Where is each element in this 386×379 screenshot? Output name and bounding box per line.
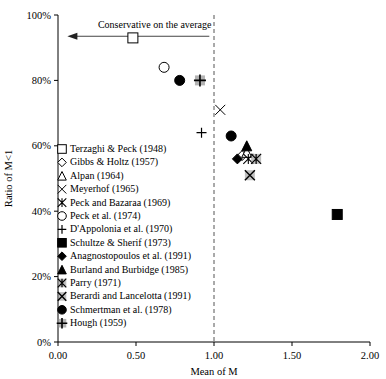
legend-item: Berardi and Lancelotta (1991): [58, 290, 191, 302]
data-point: [245, 170, 255, 180]
legend-item-label: Alpan (1964): [70, 170, 124, 182]
legend-item-label: Terzaghi & Peck (1948): [70, 143, 166, 155]
legend-marker: [58, 172, 67, 181]
legend-item-label: Hough (1959): [70, 317, 126, 329]
y-tick-label: 60%: [32, 140, 52, 151]
data-points-group: [128, 33, 342, 220]
legend-item-label: Meyerhof (1965): [70, 183, 139, 195]
legend-marker: [58, 306, 67, 315]
legend-item: Burland and Burbidge (1985): [58, 264, 188, 276]
data-point: [251, 154, 261, 164]
y-tick-label: 0%: [37, 337, 51, 348]
data-point-marker: [215, 105, 225, 115]
data-point: [194, 74, 206, 86]
legend-item-label: Peck and Bazaraa (1969): [70, 197, 170, 209]
legend-marker: [58, 212, 67, 221]
data-point-marker: [197, 128, 207, 138]
legend-item: Anagnostopoulos et al. (1991): [58, 250, 191, 262]
data-point: [226, 131, 236, 141]
legend-marker: [58, 252, 67, 261]
y-tick-label: 20%: [32, 271, 52, 282]
legend-marker: [58, 158, 67, 167]
data-point: [332, 209, 342, 219]
legend-marker: [58, 239, 67, 248]
x-tick-label: 2.00: [361, 350, 379, 361]
legend-item: Meyerhof (1965): [58, 183, 139, 195]
legend-marker: [58, 185, 67, 194]
y-tick-label: 40%: [32, 206, 52, 217]
legend-item-label: Gibbs & Holtz (1957): [70, 156, 158, 168]
legend-item: Schmertman et al. (1978): [58, 304, 172, 316]
legend-item-label: Schmertman et al. (1978): [70, 304, 172, 316]
legend-item: Peck et al. (1974): [58, 210, 141, 222]
data-point: [242, 141, 252, 151]
legend-item: Parry (1971): [58, 277, 121, 289]
x-tick-label: 1.50: [283, 350, 301, 361]
data-point-marker: [159, 62, 169, 72]
legend-item-label: Parry (1971): [70, 277, 121, 289]
legend-item: Schultze & Sherif (1973): [58, 237, 171, 249]
data-point: [128, 33, 138, 43]
x-tick-label: 0.50: [127, 350, 145, 361]
legend-item-label: Schultze & Sherif (1973): [70, 237, 171, 249]
conservative-arrow-head: [67, 33, 77, 40]
legend-item: Terzaghi & Peck (1948): [58, 143, 167, 155]
data-point-marker: [128, 33, 138, 43]
data-point: [159, 62, 169, 72]
legend-marker: [58, 225, 67, 234]
y-axis-title: Ratio of M<1: [3, 150, 14, 207]
data-point-marker: [226, 131, 236, 141]
y-tick-label: 80%: [32, 75, 52, 86]
data-point: [197, 128, 207, 138]
legend-item-label: Berardi and Lancelotta (1991): [70, 290, 191, 302]
y-tick-label: 100%: [27, 10, 52, 21]
x-tick-label: 0.00: [49, 350, 67, 361]
scatter-plot-figure: 0%20%40%60%80%100%0.000.501.001.502.00Me…: [0, 0, 386, 379]
data-point: [175, 75, 185, 85]
data-point-marker: [242, 141, 252, 151]
legend: Terzaghi & Peck (1948)Gibbs & Holtz (195…: [57, 143, 191, 329]
legend-item-label: D'Appolonia et al. (1970): [70, 223, 172, 235]
data-point-marker: [332, 209, 342, 219]
plot-canvas: 0%20%40%60%80%100%0.000.501.001.502.00Me…: [0, 0, 386, 379]
conservative-annotation: Conservative on the average: [98, 19, 212, 30]
x-tick-label: 1.00: [205, 350, 223, 361]
data-point: [215, 105, 225, 115]
legend-marker: [58, 198, 67, 207]
legend-item: Gibbs & Holtz (1957): [58, 156, 158, 168]
legend-item: Alpan (1964): [58, 170, 124, 182]
legend-item: D'Appolonia et al. (1970): [58, 223, 173, 235]
legend-item: Hough (1959): [57, 317, 127, 329]
x-axis-title: Mean of M: [190, 366, 238, 377]
legend-marker: [58, 145, 67, 154]
legend-item-label: Burland and Burbidge (1985): [70, 264, 188, 276]
legend-item: Peck and Bazaraa (1969): [58, 197, 171, 209]
legend-marker: [58, 265, 67, 274]
legend-item-label: Peck et al. (1974): [70, 210, 141, 222]
legend-item-label: Anagnostopoulos et al. (1991): [70, 250, 191, 262]
data-point-marker: [175, 75, 185, 85]
